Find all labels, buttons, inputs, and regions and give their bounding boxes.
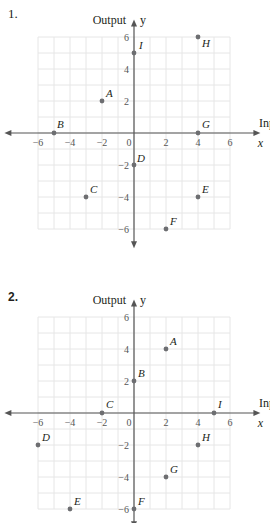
point-label: G bbox=[170, 463, 178, 475]
y-tick-label: −2 bbox=[118, 440, 129, 451]
x-axis-variable: x bbox=[257, 416, 264, 430]
y-tick-label: 4 bbox=[124, 64, 129, 75]
x-tick-label: 0 bbox=[127, 417, 132, 428]
x-tick-label: −4 bbox=[65, 137, 76, 148]
x-axis-title: Input bbox=[259, 116, 270, 130]
x-tick-label: 6 bbox=[228, 417, 233, 428]
point-label: A bbox=[169, 335, 177, 347]
y-axis-up-arrow-icon bbox=[131, 299, 137, 306]
coordinate-plane-2: OutputyInputx−6−4−20246−6−4−2246ABCDEFGH… bbox=[0, 255, 270, 523]
x-tick-label: −2 bbox=[97, 137, 108, 148]
point-label: C bbox=[90, 183, 98, 195]
point-label: F bbox=[137, 495, 145, 507]
y-tick-label: −4 bbox=[118, 192, 129, 203]
y-tick-label: 2 bbox=[124, 376, 129, 387]
x-tick-label: −4 bbox=[65, 417, 76, 428]
point-label: G bbox=[202, 118, 210, 130]
x-axis-left-arrow-icon bbox=[4, 410, 11, 416]
point-label: H bbox=[201, 37, 211, 49]
point-label: B bbox=[57, 118, 64, 130]
point-label: F bbox=[169, 215, 177, 227]
x-axis-variable: x bbox=[257, 136, 264, 150]
y-tick-label: 6 bbox=[124, 312, 129, 323]
point-label: B bbox=[138, 367, 145, 379]
y-tick-label: −2 bbox=[118, 160, 129, 171]
x-tick-label: 2 bbox=[164, 137, 169, 148]
point-label: I bbox=[138, 39, 144, 51]
point-label: C bbox=[106, 398, 114, 410]
y-tick-label: −6 bbox=[118, 504, 129, 515]
y-axis-up-arrow-icon bbox=[131, 19, 137, 26]
x-tick-label: 2 bbox=[164, 417, 169, 428]
coordinate-plane-1: OutputyInputx−6−4−20246−6−4−2246ABCDEFGH… bbox=[0, 0, 270, 255]
y-axis-title: Output bbox=[93, 293, 127, 307]
x-tick-label: −6 bbox=[33, 137, 44, 148]
y-tick-label: 6 bbox=[124, 32, 129, 43]
point-label: H bbox=[201, 431, 211, 443]
y-axis-down-arrow-icon bbox=[131, 241, 137, 248]
y-axis-title: Output bbox=[93, 13, 127, 27]
y-tick-label: 2 bbox=[124, 96, 129, 107]
point-label: A bbox=[105, 87, 113, 99]
x-axis-left-arrow-icon bbox=[4, 130, 11, 136]
y-axis-variable: y bbox=[140, 13, 146, 27]
point-label: E bbox=[201, 183, 209, 195]
y-tick-label: −6 bbox=[118, 224, 129, 235]
x-tick-label: −6 bbox=[33, 417, 44, 428]
x-tick-label: 4 bbox=[196, 417, 201, 428]
x-tick-label: 4 bbox=[196, 137, 201, 148]
y-axis-variable: y bbox=[140, 293, 146, 307]
x-tick-label: 0 bbox=[127, 137, 132, 148]
point-label: E bbox=[73, 495, 81, 507]
point-label: D bbox=[136, 152, 145, 164]
x-tick-label: 6 bbox=[228, 137, 233, 148]
y-tick-label: 4 bbox=[124, 344, 129, 355]
x-axis-title: Input bbox=[259, 396, 270, 410]
y-tick-label: −4 bbox=[118, 472, 129, 483]
point-label: I bbox=[217, 398, 223, 410]
point-label: D bbox=[41, 431, 50, 443]
x-tick-label: −2 bbox=[97, 417, 108, 428]
